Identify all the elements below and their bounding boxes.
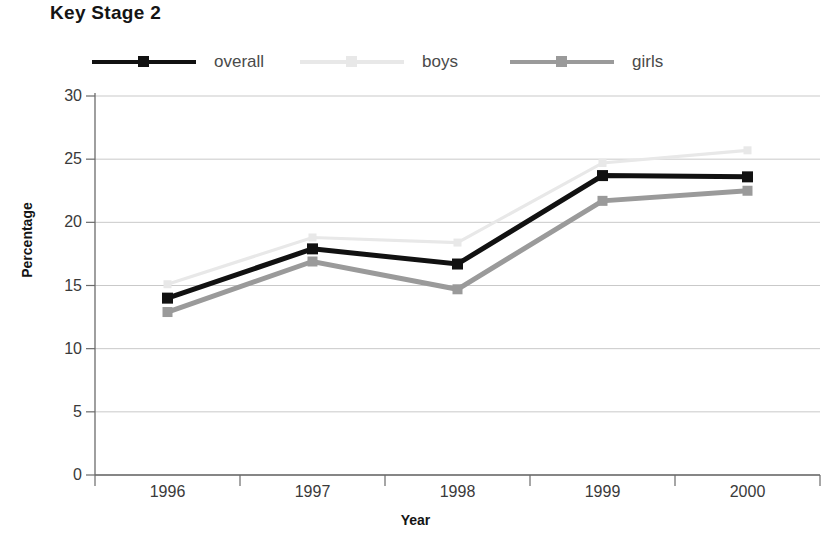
data-point-boys [454,239,462,247]
series-girls [163,186,753,317]
data-point-overall [307,243,318,254]
data-point-boys [164,280,172,288]
data-point-boys [599,159,607,167]
data-point-boys [309,233,317,241]
data-point-overall [597,170,608,181]
data-point-girls [163,307,173,317]
series-layer [162,146,753,317]
plot-area [0,0,831,534]
data-point-overall [742,171,753,182]
data-point-girls [598,196,608,206]
data-point-girls [308,256,318,266]
data-point-overall [162,293,173,304]
data-point-boys [744,146,752,154]
data-point-girls [743,186,753,196]
data-point-girls [453,284,463,294]
chart-figure: Key Stage 2 overall boys girls Percentag… [0,0,831,534]
data-point-overall [452,259,463,270]
